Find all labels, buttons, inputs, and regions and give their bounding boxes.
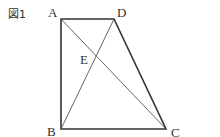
label-a: A (48, 5, 58, 20)
label-c: C (171, 125, 180, 137)
diagonal-bd (61, 19, 114, 129)
label-e: E (80, 52, 88, 67)
trapezoid-figure: 図1 A D E B C (0, 0, 220, 137)
figure-caption: 図1 (8, 8, 26, 21)
label-d: D (117, 5, 126, 20)
label-b: B (47, 124, 56, 137)
diagonal-ac (61, 19, 166, 129)
